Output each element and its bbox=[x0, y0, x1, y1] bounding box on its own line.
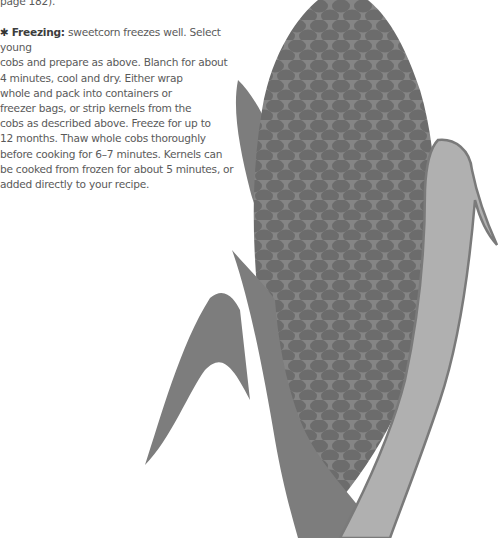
previous-paragraph-end: page 182). bbox=[0, 0, 55, 9]
freezing-line: be cooked from frozen for about 5 minute… bbox=[0, 163, 233, 175]
freezing-line: freezer bags, or strip kernels from the bbox=[0, 102, 191, 114]
freezing-line: before cooking for 6–7 minutes. Kernels … bbox=[0, 148, 222, 160]
freezing-line: 12 months. Thaw whole cobs thoroughly bbox=[0, 132, 206, 144]
freezing-line: 4 minutes, cool and dry. Either wrap bbox=[0, 72, 183, 84]
freezing-heading: Freezing: bbox=[12, 26, 65, 38]
freezing-line: cobs and prepare as above. Blanch for ab… bbox=[0, 56, 227, 68]
husk-lower-left-leaf bbox=[145, 293, 250, 465]
freezing-line: whole and pack into containers or bbox=[0, 87, 172, 99]
freezing-line: added directly to your recipe. bbox=[0, 178, 149, 190]
freezing-paragraph: ✱ Freezing: sweetcorn freezes well. Sele… bbox=[0, 25, 250, 192]
freezing-line: cobs as described above. Freeze for up t… bbox=[0, 117, 211, 129]
asterisk-icon: ✱ bbox=[0, 26, 9, 38]
